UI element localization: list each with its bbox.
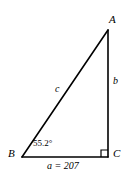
triangle-diagram: A B C b c 55.2° a = 207 (0, 0, 127, 183)
triangle-graphic (0, 0, 127, 183)
side-label-b: b (113, 76, 118, 86)
side-label-a-measure: a = 207 (47, 161, 79, 171)
right-angle-marker-icon (101, 150, 108, 157)
side-label-c: c (55, 84, 59, 94)
vertex-label-b: B (8, 148, 15, 159)
vertex-label-c: C (113, 148, 120, 159)
angle-label-b: 55.2° (33, 139, 52, 148)
vertex-label-a: A (109, 14, 116, 25)
